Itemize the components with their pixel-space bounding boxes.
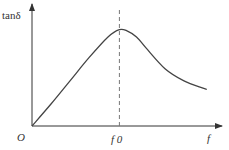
origin-label: O xyxy=(17,131,25,143)
x-axis-label: f xyxy=(207,132,212,144)
chart: tanδ f O f 0 xyxy=(0,0,229,150)
peak-tick-label: f 0 xyxy=(111,133,123,145)
y-axis-label: tanδ xyxy=(2,9,21,21)
